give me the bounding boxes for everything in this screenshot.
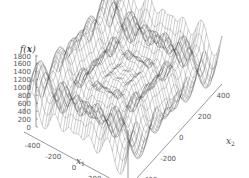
z-tick-label: 600 xyxy=(18,100,31,108)
x2-tick-label: 0 xyxy=(179,134,183,142)
surface-gridline xyxy=(94,29,188,147)
surface-gridline xyxy=(32,0,126,93)
z-tick-label: 200 xyxy=(18,116,31,124)
x2-tick-label: 200 xyxy=(198,113,211,121)
x1-tick-label: -400 xyxy=(24,142,40,150)
z-tick-label: 0 xyxy=(27,124,31,132)
z-tick-label: 1200 xyxy=(13,76,31,84)
surface-gridline xyxy=(118,0,222,56)
x2-tick-label: 400 xyxy=(217,92,230,100)
z-tick-label: 1400 xyxy=(13,68,31,76)
z-axis-label: f(x) xyxy=(19,44,36,54)
x2-axis-label: x2 xyxy=(226,136,235,147)
z-tick-label: 400 xyxy=(18,108,31,116)
x1-tick-label: -200 xyxy=(45,153,61,161)
x1-axis-ticks: -400-2000200400 xyxy=(24,142,122,178)
x1-tick-label: 200 xyxy=(88,175,101,178)
surface-gridline xyxy=(58,1,152,119)
x1-axis-label: x1 xyxy=(76,156,85,167)
x2-tick-label: -200 xyxy=(160,155,176,163)
z-tick-label: 1600 xyxy=(13,60,31,68)
z-tick-label: 1000 xyxy=(13,84,31,92)
surface-plot: 020040060080010001200140016001800 -400-2… xyxy=(0,0,249,178)
x2-axis-line xyxy=(128,84,222,178)
x2-tick-label: -400 xyxy=(141,176,157,178)
x2-axis-ticks: -400-2000200400 xyxy=(141,92,230,178)
surface-gridline xyxy=(128,36,222,155)
z-tick-label: 800 xyxy=(18,92,31,100)
z-axis-ticks: 020040060080010001200140016001800 xyxy=(13,53,38,132)
